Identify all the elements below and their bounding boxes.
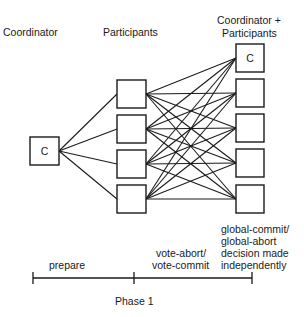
edge-participant-participant: [146, 58, 236, 164]
participant-node: [117, 185, 146, 213]
timeline-label-vote-1: vote-abort/: [156, 247, 206, 259]
header-coordinator-participants-1: Coordinator +: [217, 14, 281, 26]
edge-coordinator-participant: [59, 94, 117, 151]
timeline-label-vote-2: vote-commit: [152, 259, 209, 271]
right-participant-node: [236, 114, 264, 142]
timeline-label-global-4: independently: [221, 259, 286, 271]
timeline-label-global-1: global-commit/: [221, 223, 289, 235]
phase-label: Phase 1: [115, 295, 154, 307]
right-participant-node: [236, 149, 264, 177]
timeline-label-global-3: decision made: [221, 247, 289, 259]
right-participant-node: [236, 79, 264, 107]
edge-coordinator-participant: [59, 129, 117, 151]
coordinator-node-label: C: [30, 145, 59, 157]
right-participant-node: [236, 185, 264, 213]
header-coordinator-participants-2: Participants: [222, 27, 277, 39]
edge-participant-participant: [146, 58, 236, 94]
edge-coordinator-participant: [59, 151, 117, 199]
right-coordinator-node-label: C: [236, 52, 264, 64]
participant-node: [117, 80, 146, 108]
timeline-label-prepare: prepare: [49, 259, 85, 271]
participant-node: [117, 115, 146, 143]
header-participants: Participants: [103, 26, 158, 38]
timeline-label-global-2: global-abort: [221, 235, 276, 247]
header-coordinator: Coordinator: [3, 26, 58, 38]
participant-node: [117, 150, 146, 178]
